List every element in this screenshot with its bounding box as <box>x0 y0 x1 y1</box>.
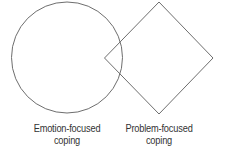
emotion-focused-label: Emotion-focused coping <box>27 122 106 146</box>
emotion-focused-circle <box>12 2 123 113</box>
problem-focused-label-line1: Problem-focused <box>119 122 198 134</box>
emotion-focused-label-line1: Emotion-focused <box>27 122 106 134</box>
problem-focused-diamond <box>105 2 214 114</box>
coping-diagram: Emotion-focused coping Problem-focused c… <box>0 0 225 157</box>
emotion-focused-label-line2: coping <box>27 134 106 146</box>
problem-focused-label: Problem-focused coping <box>119 122 198 146</box>
problem-focused-label-line2: coping <box>119 134 198 146</box>
